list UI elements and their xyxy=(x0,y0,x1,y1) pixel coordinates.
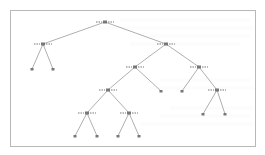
split-node xyxy=(78,112,96,115)
tree-edge xyxy=(43,44,53,69)
tree-edge xyxy=(108,90,129,113)
tree-edge xyxy=(129,113,139,136)
leaf-node xyxy=(160,90,163,93)
leaf-node xyxy=(202,113,205,116)
tree-edge xyxy=(217,90,225,114)
leaf-node xyxy=(52,68,55,71)
tree-edge xyxy=(105,22,166,44)
tree-edge xyxy=(135,44,166,67)
leaf-node xyxy=(31,68,34,71)
split-node xyxy=(157,43,175,46)
tree-edge xyxy=(166,44,199,67)
leaf-node xyxy=(181,90,184,93)
tree-edge xyxy=(32,44,43,69)
leaf-node xyxy=(74,135,77,138)
leaf-node xyxy=(224,113,227,116)
split-node xyxy=(96,21,114,24)
tree-edge xyxy=(135,67,161,91)
split-node xyxy=(208,89,226,92)
tree-edge xyxy=(87,90,108,113)
split-node xyxy=(34,43,52,46)
tree-edge xyxy=(199,67,217,90)
tree-edge xyxy=(182,67,199,91)
tree-edge xyxy=(108,67,135,90)
leaf-node xyxy=(96,135,99,138)
split-node xyxy=(99,89,117,92)
split-node xyxy=(190,66,208,69)
split-node xyxy=(120,112,138,115)
leaf-node xyxy=(117,135,120,138)
decision-tree xyxy=(0,0,265,155)
tree-edge xyxy=(43,22,105,44)
tree-edge xyxy=(118,113,129,136)
tree-edge xyxy=(75,113,87,136)
tree-edge xyxy=(87,113,97,136)
split-node xyxy=(126,66,144,69)
tree-edge xyxy=(203,90,217,114)
leaf-node xyxy=(138,135,141,138)
